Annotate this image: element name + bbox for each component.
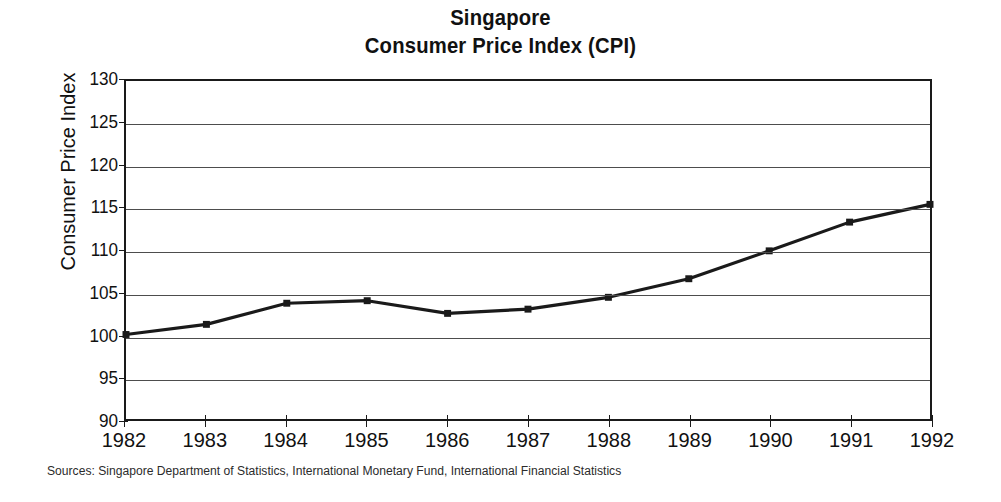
x-tick-mark-1992 [932, 415, 933, 427]
gridline-110 [126, 252, 930, 253]
x-tick-label-1987: 1987 [488, 429, 568, 451]
chart-title-line-2: Consumer Price Index (CPI) [40, 32, 961, 60]
data-point-1984 [283, 300, 290, 307]
gridline-95 [126, 380, 930, 381]
x-tick-mark-1986 [447, 415, 448, 427]
x-tick-label-1984: 1984 [246, 429, 326, 451]
data-point-1989 [685, 275, 692, 282]
data-point-1983 [203, 321, 210, 328]
x-tick-mark-1985 [366, 415, 367, 427]
x-tick-label-1986: 1986 [407, 429, 487, 451]
source-note: Sources: Singapore Department of Statist… [47, 464, 621, 479]
data-point-1990 [766, 247, 773, 254]
y-tick-label-125: 125 [78, 112, 118, 131]
x-tick-mark-1983 [205, 415, 206, 427]
gridline-125 [126, 124, 930, 125]
y-tick-label-120: 120 [78, 155, 118, 174]
gridline-105 [126, 295, 930, 296]
cpi-line-chart [126, 81, 930, 419]
x-tick-label-1992: 1992 [892, 429, 972, 451]
chart-title-block: Singapore Consumer Price Index (CPI) [0, 4, 1001, 60]
x-tick-mark-1988 [609, 415, 610, 427]
y-axis-ticks: 1301251201151101051009590 [66, 79, 118, 421]
y-tick-label-110: 110 [78, 240, 118, 259]
x-tick-label-1990: 1990 [730, 429, 810, 451]
x-tick-label-1989: 1989 [650, 429, 730, 451]
plot-area [124, 79, 932, 421]
cpi-series-line [126, 204, 930, 334]
x-tick-mark-1984 [286, 415, 287, 427]
x-tick-label-1983: 1983 [165, 429, 245, 451]
data-point-1985 [364, 297, 371, 304]
y-tick-label-105: 105 [78, 283, 118, 302]
y-tick-label-130: 130 [78, 69, 118, 88]
x-tick-label-1991: 1991 [811, 429, 891, 451]
data-point-1992 [927, 201, 934, 208]
data-point-1987 [525, 306, 532, 313]
x-tick-label-1988: 1988 [569, 429, 649, 451]
x-tick-mark-1987 [528, 415, 529, 427]
x-tick-mark-1990 [770, 415, 771, 427]
y-tick-label-115: 115 [78, 197, 118, 216]
x-tick-mark-1991 [851, 415, 852, 427]
gridline-100 [126, 338, 930, 339]
chart-title-line-1: Singapore [40, 4, 961, 32]
x-axis-ticks: 1982198319841985198619871988198919901991… [124, 421, 932, 461]
gridline-115 [126, 209, 930, 210]
y-tick-label-100: 100 [78, 326, 118, 345]
gridline-120 [126, 167, 930, 168]
x-tick-mark-1982 [124, 415, 125, 427]
data-point-1986 [444, 310, 451, 317]
x-tick-mark-1989 [690, 415, 691, 427]
x-tick-label-1982: 1982 [84, 429, 164, 451]
x-tick-label-1985: 1985 [326, 429, 406, 451]
y-tick-label-95: 95 [78, 368, 118, 387]
y-tick-label-90: 90 [78, 411, 118, 430]
data-point-1991 [846, 219, 853, 226]
